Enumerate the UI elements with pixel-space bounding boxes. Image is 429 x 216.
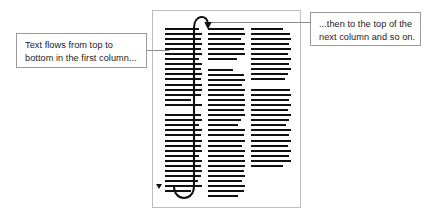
text-line — [251, 109, 288, 111]
text-line — [208, 155, 244, 157]
text-line — [251, 38, 291, 40]
text-line — [208, 89, 245, 91]
text-line — [165, 155, 199, 157]
text-line — [165, 170, 202, 172]
text-line — [208, 28, 244, 30]
text-line — [251, 99, 289, 101]
text-line — [165, 185, 202, 187]
text-line — [251, 89, 290, 91]
text-line — [208, 48, 244, 50]
text-line — [165, 58, 199, 60]
text-line — [208, 84, 242, 86]
text-line — [251, 119, 289, 121]
text-line — [251, 68, 291, 70]
text-line — [165, 73, 202, 75]
text-line — [208, 185, 245, 187]
text-line — [165, 43, 202, 45]
second-column — [208, 28, 245, 200]
text-line — [208, 140, 245, 142]
text-line — [208, 165, 245, 167]
text-line — [208, 33, 245, 35]
text-line — [208, 114, 245, 116]
first-column — [165, 28, 202, 195]
text-line — [251, 165, 283, 167]
text-line — [251, 48, 291, 50]
leader-line-right — [208, 22, 310, 23]
text-line — [208, 109, 244, 111]
text-line — [251, 134, 289, 136]
text-line — [208, 94, 244, 96]
text-line — [165, 99, 191, 101]
text-flow-end-marker — [156, 184, 162, 189]
callout-next-column: ...then to the top of the next column an… — [310, 12, 421, 46]
text-line — [208, 79, 245, 81]
text-line — [208, 99, 245, 101]
callout-left-line1: Text flows from top to — [25, 39, 139, 52]
leader-line-left — [147, 50, 169, 51]
text-line — [165, 124, 199, 126]
text-line — [208, 43, 245, 45]
text-line — [208, 170, 244, 172]
text-line — [251, 28, 283, 30]
text-line — [251, 104, 291, 106]
text-line — [208, 124, 238, 126]
text-line — [208, 134, 244, 136]
text-line — [251, 129, 291, 131]
text-line — [165, 104, 202, 106]
callout-text-flows: Text flows from top to bottom in the fir… — [16, 33, 147, 68]
text-line — [165, 134, 201, 136]
text-line — [251, 63, 289, 65]
text-line — [208, 53, 245, 55]
text-line — [165, 129, 202, 131]
text-line — [165, 63, 202, 65]
text-line — [208, 74, 244, 76]
text-line — [208, 145, 242, 147]
text-line — [165, 53, 202, 55]
text-line — [165, 114, 201, 116]
text-line — [208, 69, 233, 71]
text-line — [165, 190, 191, 192]
text-line — [208, 58, 237, 60]
text-line — [251, 33, 290, 35]
text-line — [208, 160, 245, 162]
text-line — [251, 94, 291, 96]
text-line — [165, 145, 201, 147]
text-line — [251, 73, 288, 75]
text-line — [165, 78, 201, 80]
text-line — [165, 33, 202, 35]
text-line — [251, 43, 289, 45]
text-line — [165, 150, 202, 152]
text-line — [165, 175, 201, 177]
text-line — [165, 94, 201, 96]
text-line — [208, 38, 241, 40]
text-line — [251, 155, 289, 157]
text-line — [251, 114, 291, 116]
third-column — [251, 28, 291, 170]
text-line — [251, 160, 291, 162]
text-line — [165, 84, 202, 86]
text-line — [251, 150, 291, 152]
text-line — [165, 28, 199, 30]
text-line — [165, 140, 202, 142]
callout-left-line2: bottom in the first column... — [25, 52, 139, 65]
text-line — [208, 104, 245, 106]
text-line — [165, 68, 201, 70]
text-line — [208, 119, 241, 121]
text-line — [251, 58, 291, 60]
text-line — [165, 89, 202, 91]
text-line — [208, 190, 244, 192]
text-line — [165, 165, 201, 167]
text-line — [208, 175, 245, 177]
text-line — [251, 53, 288, 55]
callout-right-line1: ...then to the top of the — [319, 18, 413, 31]
text-line — [208, 180, 242, 182]
diagram-canvas: Text flows from top to bottom in the fir… — [0, 0, 429, 216]
text-line — [165, 180, 198, 182]
text-line — [165, 119, 202, 121]
text-line — [251, 145, 288, 147]
text-line — [208, 195, 238, 197]
text-line — [165, 48, 201, 50]
text-line — [208, 150, 245, 152]
text-line — [251, 140, 291, 142]
callout-right-line2: next column and so on. — [319, 31, 413, 44]
